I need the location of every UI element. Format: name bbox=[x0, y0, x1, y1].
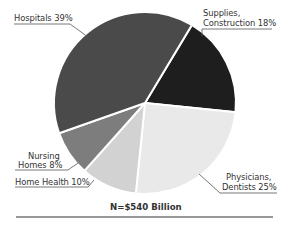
label-supplies-line2: Construction 18% bbox=[203, 18, 276, 28]
total-label: N=$540 Billion bbox=[110, 202, 182, 212]
label-physicians-line2: Dentists 25% bbox=[222, 182, 277, 192]
label-home-health: Home Health 10% bbox=[15, 177, 90, 187]
label-physicians-line1: Physicians, bbox=[226, 172, 271, 182]
leader-hospitals bbox=[14, 24, 88, 37]
leader-supplies bbox=[202, 29, 272, 36]
pie-slice-physicians-dentists bbox=[136, 103, 236, 194]
label-supplies-line1: Supplies, bbox=[203, 8, 240, 18]
label-nursing-line2: Homes 8% bbox=[18, 160, 62, 170]
label-hospitals: Hospitals 39% bbox=[14, 13, 73, 23]
pie-slices bbox=[54, 12, 236, 194]
